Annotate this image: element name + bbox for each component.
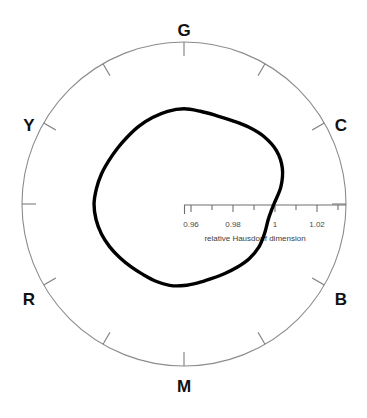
radial-tick-label-1: 0.98 <box>225 220 241 229</box>
polar-chart-figure: 0.96 0.98 1 1.02 relative Hausdorff dime… <box>0 0 367 418</box>
radial-axis-title: relative Hausdorff dimension <box>204 234 305 243</box>
hue-label-r: R <box>23 290 35 309</box>
radial-tick-label-0: 0.96 <box>183 220 199 229</box>
hue-label-m: M <box>177 377 191 396</box>
radial-tick-label-2: 1 <box>273 220 278 229</box>
hue-label-g: G <box>177 21 190 40</box>
radial-tick-label-3: 1.02 <box>309 220 325 229</box>
hue-label-b: B <box>335 290 347 309</box>
hue-label-y: Y <box>23 116 35 135</box>
hue-label-c: C <box>335 116 347 135</box>
polar-plot-svg: 0.96 0.98 1 1.02 relative Hausdorff dime… <box>0 0 367 418</box>
